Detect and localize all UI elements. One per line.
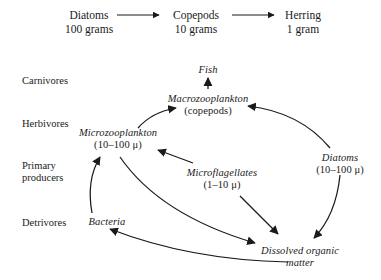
node-bacteria: Bacteria [89,216,126,228]
chain-step-name: Diatoms [70,9,109,21]
arrow-bacteria-to-microzooplankton [90,157,100,213]
trophic-label-line1: Carnivores [22,75,68,86]
node-label: Microflagellates [187,167,258,178]
node-fish: Fish [198,64,217,76]
node-label: Diatoms [322,152,358,163]
node-diatoms: Diatoms (10–100 μ) [316,152,364,176]
node-sublabel: (10–100 μ) [79,139,157,151]
trophic-label-line1: Detrivores [22,217,66,228]
chain-step-diatoms: Diatoms 100 grams [65,8,113,36]
node-macrozooplankton: Macrozooplankton (copepods) [168,93,249,117]
node-label: Bacteria [89,216,126,227]
chain-step-name: Herring [285,9,321,21]
trophic-label-line1: Primary [22,160,56,171]
node-sublabel: (10–100 μ) [316,164,364,176]
trophic-label-herbivores: Herbivores [22,118,69,130]
chain-step-copepods: Copepods 10 grams [173,8,219,36]
node-dissolved-organic-matter: Dissolved organic matter [261,245,339,269]
food-web-arrows [0,0,381,280]
trophic-label-line1: Herbivores [22,118,69,129]
node-sublabel: (1–10 μ) [187,179,258,191]
node-microzooplankton: Microzooplankton (10–100 μ) [79,127,157,151]
node-sublabel: matter [261,257,339,269]
chain-step-herring: Herring 1 gram [285,8,321,36]
arrow-microflagellates-to-microzooplankton [158,150,193,163]
node-microflagellates: Microflagellates (1–10 μ) [187,167,258,191]
arrow-diatoms-to-dissolved-organic-matter [314,175,340,238]
node-label: Microzooplankton [79,127,157,138]
node-label: Macrozooplankton [168,93,249,104]
food-web-figure: Diatoms 100 grams Copepods 10 grams Herr… [0,0,381,280]
chain-step-amount: 100 grams [65,22,113,36]
node-sublabel: (copepods) [168,105,249,117]
arrow-microflagellates-to-dissolved-organic-matter [240,196,278,234]
trophic-label-line2: producers [22,172,63,183]
node-label: Dissolved organic [261,245,339,256]
chain-step-amount: 10 grams [173,22,219,36]
chain-step-amount: 1 gram [285,22,321,36]
top-chain-arrows [0,0,381,280]
trophic-label-carnivores: Carnivores [22,75,68,87]
trophic-label-primary-producers: Primary producers [22,160,63,184]
trophic-label-detrivores: Detrivores [22,217,66,229]
chain-step-name: Copepods [173,9,219,21]
node-label: Fish [198,64,217,75]
arrow-diatoms-to-macrozooplankton [248,106,330,148]
